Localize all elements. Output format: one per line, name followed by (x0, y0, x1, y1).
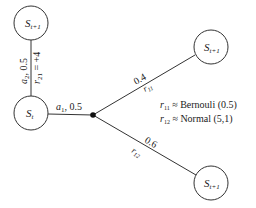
edge-branch-down (93, 115, 196, 175)
label-action1: a1, 0.5 (56, 101, 82, 114)
edge-action1 (48, 114, 93, 115)
node-upper-right: St+1 (194, 30, 228, 64)
legend-line-1: r11 ≈ Bernouli (0.5) (160, 99, 237, 111)
chance-node-dot (90, 112, 96, 118)
label-action2: a2, 0.5 (18, 58, 31, 84)
node-lower-right: St+1 (194, 166, 228, 200)
label-reward12: r12 (130, 145, 144, 159)
mdp-diagram: St+1 St St+1 St+1 a2, 0.5 r21 = +4 a1, 0… (0, 0, 256, 208)
node-current: St (14, 96, 48, 130)
legend-line-2: r12 ≈ Normal (5,1) (160, 113, 233, 125)
label-reward21: r21 = +4 (31, 52, 44, 84)
label-prob-down: 0.6 (143, 134, 159, 150)
node-top: St+1 (14, 6, 48, 40)
diagram-canvas: St+1 St St+1 St+1 a2, 0.5 r21 = +4 a1, 0… (0, 0, 256, 208)
